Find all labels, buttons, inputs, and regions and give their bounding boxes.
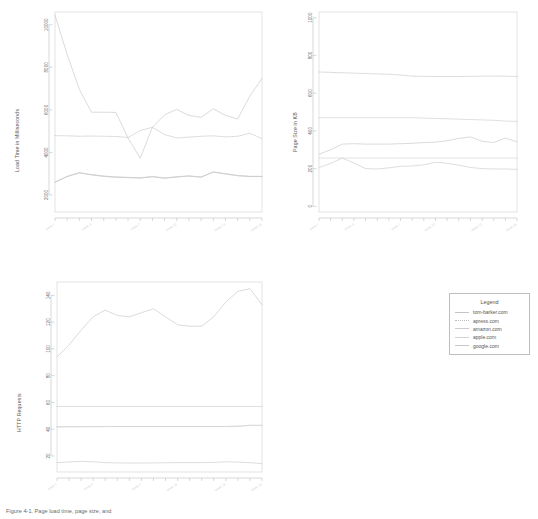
svg-text:60: 60 [46, 399, 51, 405]
chart3-y-axis-title: HTTP Requests [16, 393, 22, 432]
chart2-y-axis-title: Page Size in KB [292, 112, 298, 152]
chart-panel-http-requests: HTTP Requests 20406080100120140week 1wee… [0, 272, 285, 507]
legend-line-sample-icon [455, 320, 469, 321]
legend-title: Legend [450, 299, 529, 305]
svg-text:week 1: week 1 [47, 482, 58, 491]
svg-text:week 13: week 13 [214, 482, 227, 492]
legend-item: amazon.com [450, 325, 529, 333]
svg-text:140: 140 [46, 291, 51, 299]
svg-text:week 4: week 4 [81, 222, 92, 231]
svg-text:0: 0 [308, 205, 313, 208]
legend-line-sample-icon [455, 312, 469, 313]
svg-text:20: 20 [46, 453, 51, 459]
legend-item-label: amazon.com [473, 326, 502, 332]
chart-panel-page-size: Page Size in KB 02004006008001000week 1w… [285, 0, 538, 250]
svg-text:1000: 1000 [308, 12, 313, 23]
svg-text:800: 800 [308, 51, 313, 59]
svg-text:week 7: week 7 [390, 222, 401, 231]
svg-text:8000: 8000 [44, 62, 49, 73]
legend-line-sample-icon [455, 337, 469, 338]
svg-text:4000: 4000 [44, 147, 49, 158]
svg-text:6000: 6000 [44, 104, 49, 115]
svg-text:2000: 2000 [44, 189, 49, 200]
legend-item-label: tom-barker.com [473, 309, 508, 315]
svg-text:40: 40 [46, 426, 51, 432]
svg-text:10000: 10000 [44, 18, 49, 31]
svg-text:week 16: week 16 [505, 222, 518, 232]
svg-text:600: 600 [308, 89, 313, 97]
chart2-plot: 02004006008001000week 1week 4week 7week … [285, 0, 538, 250]
legend-item-label: google.com [473, 343, 499, 349]
chart-panel-load-time: Load Time in Milliseconds 20004000600080… [0, 0, 285, 250]
chart1-y-axis-title: Load Time in Milliseconds [14, 109, 20, 172]
svg-text:week 10: week 10 [166, 482, 179, 492]
svg-text:100: 100 [46, 345, 51, 353]
legend: Legend tom-barker.comapress.comamazon.co… [449, 293, 530, 355]
svg-text:week 16: week 16 [250, 482, 263, 492]
legend-item: apple.com [450, 333, 529, 341]
svg-text:week 7: week 7 [130, 222, 141, 231]
svg-text:week 10: week 10 [423, 222, 436, 232]
legend-line-sample-icon [455, 328, 469, 329]
svg-text:120: 120 [46, 318, 51, 326]
svg-text:week 4: week 4 [343, 222, 354, 231]
chart1-plot: 200040006000800010000week 1week 4week 7w… [0, 0, 285, 250]
svg-text:week 13: week 13 [470, 222, 483, 232]
svg-text:week 16: week 16 [250, 222, 263, 232]
legend-item-label: apress.com [473, 318, 499, 324]
figure-caption: Figure 4-1. Page load time, page size, a… [6, 508, 111, 514]
svg-text:week 4: week 4 [83, 482, 94, 491]
legend-item: google.com [450, 342, 529, 350]
svg-text:week 1: week 1 [309, 222, 320, 231]
legend-item: apress.com [450, 316, 529, 324]
svg-text:200: 200 [308, 164, 313, 172]
legend-entries: tom-barker.comapress.comamazon.comapple.… [450, 308, 529, 350]
legend-item: tom-barker.com [450, 308, 529, 316]
svg-text:400: 400 [308, 127, 313, 135]
svg-text:week 1: week 1 [45, 222, 56, 231]
legend-item-label: apple.com [473, 334, 496, 340]
svg-text:80: 80 [46, 373, 51, 379]
legend-line-sample-icon [455, 345, 469, 346]
svg-text:week 10: week 10 [165, 222, 178, 232]
chart3-plot: 20406080100120140week 1week 4week 7week … [0, 272, 285, 507]
svg-text:week 7: week 7 [131, 482, 142, 491]
svg-text:week 13: week 13 [213, 222, 226, 232]
